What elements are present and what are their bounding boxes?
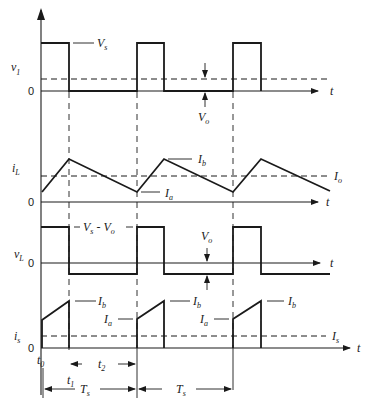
is-ia2-label: Ia	[199, 312, 208, 328]
y-axis-arrow-icon	[37, 8, 45, 20]
panel-is: Ib Ib Ib Ia Ia Is is 0 t	[14, 294, 361, 355]
iL-axis-label: iL	[12, 161, 20, 177]
panel-vL: Vs - Vo Vo vL 0 t	[14, 220, 334, 290]
vL-vo-label: Vo	[201, 229, 212, 245]
iL-t-label: t	[326, 195, 330, 209]
vL-waveform	[41, 227, 330, 274]
is-ib3-label: Ib	[287, 294, 296, 310]
is-waveform	[42, 301, 261, 348]
is-avg-label: Is	[331, 329, 339, 345]
iL-ib-label: Ib	[197, 152, 206, 168]
vs-minus-vo-label: Vs - Vo	[83, 220, 115, 236]
panel-v1: Vs v1 0 t Vo	[11, 36, 334, 126]
buck-converter-waveform-diagram: Vs v1 0 t Vo Ib Ia Io iL 0 t Vs - Vo Vo …	[0, 0, 372, 408]
v1-axis-label: v1	[11, 60, 20, 77]
ts1-label: Ts	[80, 382, 90, 398]
is-zero-label: 0	[28, 342, 34, 354]
iL-io-label: Io	[333, 169, 342, 185]
is-ib2-label: Ib	[192, 294, 201, 310]
v1-t-label: t	[330, 84, 334, 98]
vL-t-label: t	[330, 256, 334, 270]
iL-ia-label: Ia	[164, 186, 173, 202]
vs-label: Vs	[97, 36, 107, 52]
is-axis-label: is	[14, 329, 20, 345]
v1-zero-label: 0	[28, 85, 34, 97]
v1-vo-label: Vo	[198, 110, 209, 126]
vL-zero-label: 0	[28, 257, 34, 269]
waveform-svg: Vs v1 0 t Vo Ib Ia Io iL 0 t Vs - Vo Vo …	[0, 0, 372, 408]
t2-label: t2	[98, 357, 105, 373]
panel-iL: Ib Ia Io iL 0 t	[12, 152, 342, 209]
timing-annotations: t0 t2 t1 Ts Ts	[37, 350, 233, 398]
v1-waveform	[41, 43, 261, 91]
is-ia1-label: Ia	[103, 312, 112, 328]
ts2-label: Ts	[176, 382, 186, 398]
iL-zero-label: 0	[28, 196, 34, 208]
vL-axis-label: vL	[14, 247, 24, 263]
t1-label: t1	[67, 373, 74, 389]
is-ib1-label: Ib	[97, 294, 106, 310]
is-t-label: t	[357, 341, 361, 355]
